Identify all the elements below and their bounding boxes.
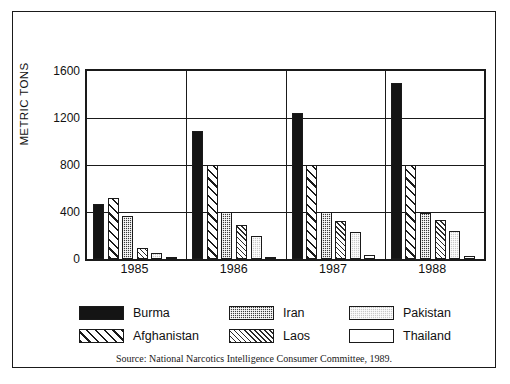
bar-group (292, 71, 376, 259)
y-axis-tick-label: 1200 (53, 112, 80, 124)
bar-thailand-1985 (166, 257, 177, 259)
bar-laos-1985 (137, 248, 148, 259)
x-axis-tick-label: 1986 (184, 262, 283, 276)
legend-swatch-pakistan (349, 306, 394, 320)
bar-group (93, 71, 177, 259)
legend-swatch-iran (229, 306, 274, 320)
bar-laos-1988 (435, 220, 446, 259)
legend-item-laos: Laos (229, 329, 349, 343)
legend-label: Burma (133, 306, 170, 320)
legend-label: Thailand (403, 329, 451, 343)
chart-figure: METRIC TONS 040080012001600 BurmaIranPak… (12, 11, 496, 368)
legend-item-pakistan: Pakistan (349, 306, 469, 320)
category-separator (186, 71, 187, 259)
bar-burma-1986 (192, 131, 203, 259)
bar-iran-1987 (321, 212, 332, 259)
legend-label: Iran (283, 306, 305, 320)
x-axis-tick-label: 1988 (383, 262, 482, 276)
bar-iran-1986 (221, 212, 232, 259)
bar-afghanistan-1986 (207, 165, 218, 259)
chart-legend: BurmaIranPakistanAfghanistanLaosThailand (79, 301, 469, 347)
bar-afghanistan-1985 (108, 198, 119, 259)
bar-burma-1988 (391, 83, 402, 259)
y-axis-tick-label: 0 (73, 253, 80, 265)
y-axis-tick-label: 400 (60, 206, 80, 218)
bar-burma-1985 (93, 204, 104, 259)
y-axis-tick-label: 1600 (53, 65, 80, 77)
legend-item-thailand: Thailand (349, 329, 469, 343)
category-separator (385, 71, 386, 259)
bar-afghanistan-1987 (306, 165, 317, 259)
legend-item-iran: Iran (229, 306, 349, 320)
bar-pakistan-1987 (350, 232, 361, 259)
y-axis-tick-label: 800 (60, 159, 80, 171)
bar-group (391, 71, 475, 259)
plot-area: 040080012001600 (85, 69, 486, 261)
x-axis-tick-label: 1987 (284, 262, 383, 276)
bar-thailand-1987 (364, 255, 375, 259)
bar-iran-1985 (122, 216, 133, 259)
bar-iran-1988 (420, 213, 431, 259)
category-separator (286, 71, 287, 259)
legend-swatch-burma (79, 306, 124, 320)
bar-pakistan-1986 (251, 236, 262, 260)
legend-swatch-laos (229, 329, 274, 343)
legend-item-afghanistan: Afghanistan (79, 329, 229, 343)
bar-laos-1987 (335, 221, 346, 259)
x-axis-tick-label: 1985 (85, 262, 184, 276)
bar-thailand-1986 (265, 257, 276, 259)
bar-pakistan-1985 (151, 253, 162, 259)
legend-label: Laos (283, 329, 310, 343)
legend-label: Pakistan (403, 306, 451, 320)
y-axis-title: METRIC TONS (18, 34, 36, 174)
bar-thailand-1988 (464, 256, 475, 259)
legend-swatch-afghanistan (79, 329, 124, 343)
bar-laos-1986 (236, 225, 247, 259)
bar-afghanistan-1988 (405, 165, 416, 259)
legend-swatch-thailand (349, 329, 394, 343)
legend-label: Afghanistan (133, 329, 199, 343)
bar-group (192, 71, 276, 259)
source-note: Source: National Narcotics Intelligence … (13, 353, 495, 364)
bar-pakistan-1988 (449, 231, 460, 259)
bar-burma-1987 (292, 113, 303, 259)
legend-item-burma: Burma (79, 306, 229, 320)
